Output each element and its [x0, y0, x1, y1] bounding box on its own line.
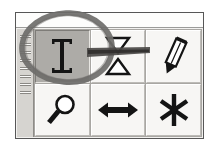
grip-ridge	[20, 67, 31, 70]
toolbar-title-label	[16, 13, 17, 14]
screenshot-canvas: Text Vertical Size	[0, 0, 214, 151]
grip-ridge	[20, 75, 31, 78]
grip-ridge	[20, 51, 31, 54]
vertical-size-icon	[103, 35, 133, 77]
magnifier-icon	[44, 92, 80, 128]
tool-button-zoom[interactable]: Zoom	[35, 84, 90, 137]
grip-ridge	[20, 91, 31, 94]
text-cursor-icon	[49, 37, 75, 75]
grip-ridge	[20, 43, 31, 46]
toolbar-panel: Text Vertical Size	[15, 12, 204, 139]
toolbar-title-band	[16, 13, 203, 28]
tool-button-vertical-size[interactable]: Vertical Size	[91, 30, 146, 83]
tool-button-text[interactable]: Text	[35, 30, 90, 83]
tool-button-grid: Text Vertical Size	[34, 29, 202, 137]
grip-ridge	[20, 59, 31, 62]
tool-button-horizontal-size[interactable]: Horizontal Size	[91, 84, 146, 137]
horizontal-arrow-icon	[97, 98, 139, 122]
tool-button-pencil[interactable]: Pencil	[146, 30, 201, 83]
tool-button-snap[interactable]: Snap	[146, 84, 201, 137]
pencil-icon	[159, 35, 189, 77]
toolbar-drag-grip[interactable]	[17, 29, 34, 137]
grip-ridge	[20, 83, 31, 86]
grip-ridge	[20, 35, 31, 38]
asterisk-icon	[157, 91, 191, 129]
